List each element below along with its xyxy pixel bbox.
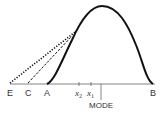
label-e: E (7, 89, 13, 98)
label-x2: x2 (75, 89, 82, 99)
label-mode: MODE (89, 102, 113, 110)
label-a: A (44, 89, 50, 98)
tangent-dashed-line (28, 36, 72, 83)
x2-subscript: 2 (79, 93, 82, 99)
x1-subscript: 1 (91, 93, 94, 99)
diagram-canvas: E C A x2 x1 MODE B (0, 0, 165, 117)
curve-diagram (0, 0, 165, 117)
label-x1: x1 (87, 89, 94, 99)
label-c: C (25, 89, 32, 98)
tangent-dotted-line (10, 32, 75, 83)
label-b: B (150, 89, 156, 98)
distribution-curve (47, 6, 153, 84)
